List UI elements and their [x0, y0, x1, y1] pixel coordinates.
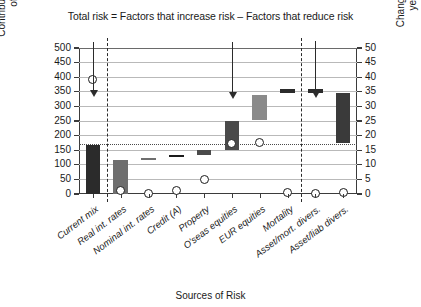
y-axis-right-tick-label: 15 — [365, 145, 376, 155]
y-axis-right-tick-label: 40 — [365, 72, 376, 82]
marker-property — [200, 175, 209, 184]
y-axis-left-tick-label: 50 — [60, 174, 71, 184]
category-separator — [107, 38, 108, 202]
bar-property — [197, 150, 211, 155]
y-axis-right-tick — [357, 135, 362, 136]
bar-eur-equities — [252, 95, 266, 121]
y-axis-right-tick-label: 0 — [365, 189, 371, 199]
y-axis-right-tick-label: 20 — [365, 130, 376, 140]
y-axis-right-tick — [357, 47, 362, 48]
gridline — [79, 135, 357, 136]
x-axis-tick — [260, 194, 261, 198]
x-axis-tick — [93, 194, 94, 198]
y-axis-right-tick — [357, 150, 362, 151]
x-axis-tick — [232, 194, 233, 198]
y-axis-right-tick-label: 45 — [365, 57, 376, 67]
y-axis-right-tick — [357, 193, 362, 194]
arrow-head-icon — [312, 91, 320, 98]
y-axis-right-title-line2: year surplus(£m) — [407, 0, 419, 48]
y-axis-right-tick — [357, 62, 362, 63]
y-axis-right-tick-label: 5 — [365, 174, 371, 184]
y-axis-left-tick-label: 150 — [54, 145, 71, 155]
x-axis-tick — [121, 194, 122, 198]
bar-asset-liab-divers — [336, 93, 350, 143]
annotation-arrow — [315, 41, 316, 92]
y-axis-right-title-line1: Change in expected end — [395, 0, 407, 48]
bar-current-mix — [86, 145, 100, 194]
x-axis-tick — [176, 194, 177, 198]
reference-line — [79, 144, 357, 145]
y-axis-left-tick — [74, 164, 79, 165]
y-axis-left-tick-label: 400 — [54, 72, 71, 82]
bar-nominal-int-rates — [141, 158, 155, 160]
y-axis-left-tick — [74, 120, 79, 121]
y-axis-left-title-line2: of surplus — [8, 0, 20, 60]
y-axis-left-tick — [74, 106, 79, 107]
y-axis-left-tick-label: 500 — [54, 43, 71, 53]
y-axis-left-tick-label: 200 — [54, 130, 71, 140]
y-axis-left-tick-label: 450 — [54, 57, 71, 67]
chart-root: Total risk = Factors that increase risk … — [0, 0, 421, 307]
y-axis-left-tick-label: 300 — [54, 101, 71, 111]
x-axis-title: Sources of Risk — [0, 290, 421, 301]
annotation-arrow — [232, 42, 233, 92]
annotation-arrow — [93, 42, 94, 90]
y-axis-right-tick — [357, 179, 362, 180]
y-axis-right-tick-label: 10 — [365, 159, 376, 169]
bar-mortality — [280, 89, 294, 93]
y-axis-left-tick-label: 250 — [54, 116, 71, 126]
y-axis-right-tick-label: 50 — [365, 43, 376, 53]
y-axis-left-title-line1: Contribution to volatility — [0, 0, 8, 60]
y-axis-right-tick — [357, 120, 362, 121]
y-axis-left-tick — [74, 47, 79, 48]
y-axis-left-tick-label: 350 — [54, 86, 71, 96]
y-axis-left-tick — [74, 179, 79, 180]
x-axis-tick — [149, 194, 150, 198]
plot-area: 0501001502002503003504004505000510152025… — [79, 48, 357, 194]
arrow-head-icon — [90, 90, 98, 97]
category-separator — [301, 38, 302, 202]
y-axis-left-title: Contribution to volatility of surplus — [0, 0, 20, 60]
chart-title: Total risk = Factors that increase risk … — [0, 10, 421, 22]
y-axis-left-tick — [74, 150, 79, 151]
y-axis-left-tick — [74, 193, 79, 194]
gridline — [79, 150, 357, 151]
y-axis-right-title: Change in expected end year surplus(£m) — [395, 0, 419, 48]
x-axis-tick — [343, 194, 344, 198]
y-axis-right-tick-label: 35 — [365, 86, 376, 96]
x-axis-tick — [315, 194, 316, 198]
y-axis-right-tick-label: 30 — [365, 101, 376, 111]
arrow-head-icon — [229, 92, 237, 99]
y-axis-right-tick-label: 25 — [365, 116, 376, 126]
y-axis-left-tick — [74, 77, 79, 78]
gridline — [79, 106, 357, 107]
y-axis-right-tick — [357, 91, 362, 92]
gridline — [79, 121, 357, 122]
y-axis-left-tick — [74, 135, 79, 136]
y-axis-left-tick — [74, 91, 79, 92]
y-axis-right-tick — [357, 77, 362, 78]
x-axis-tick — [288, 194, 289, 198]
y-axis-left-tick-label: 0 — [65, 189, 71, 199]
y-axis-right-tick — [357, 164, 362, 165]
bar-credit-a — [169, 155, 183, 157]
y-axis-left-tick — [74, 62, 79, 63]
x-axis-tick — [204, 194, 205, 198]
y-axis-right-tick — [357, 106, 362, 107]
y-axis-left-tick-label: 100 — [54, 159, 71, 169]
